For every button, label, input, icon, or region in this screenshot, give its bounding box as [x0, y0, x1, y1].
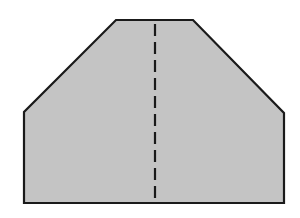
- diagram-canvas: [0, 0, 300, 218]
- shape-diagram: [0, 0, 300, 218]
